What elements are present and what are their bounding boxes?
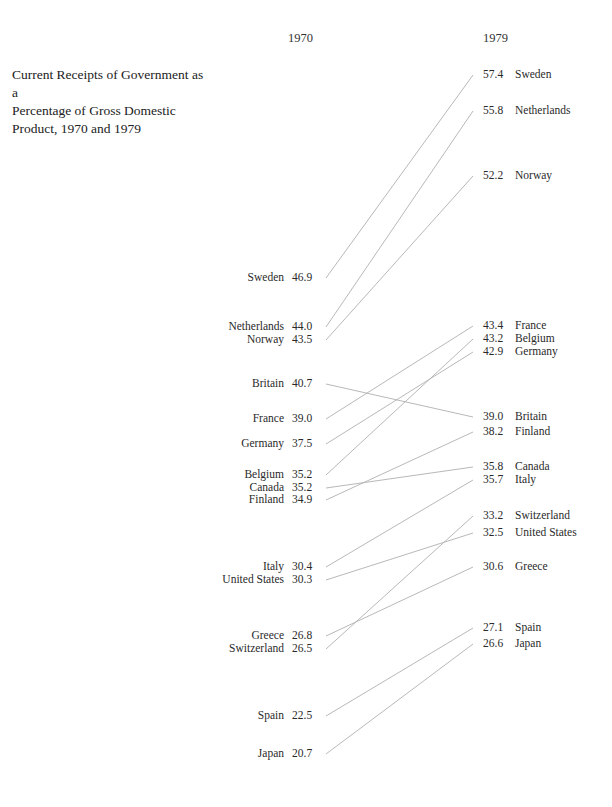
- country-label: Japan: [258, 747, 284, 760]
- slope-line: [326, 644, 473, 754]
- country-label: Belgium: [515, 332, 555, 345]
- country-label: Britain: [252, 377, 284, 390]
- slope-line: [326, 111, 473, 327]
- value-1979: 35.8: [483, 460, 503, 473]
- country-label: Germany: [515, 345, 558, 358]
- country-label: Sweden: [515, 68, 551, 81]
- slope-line: [326, 326, 473, 419]
- country-label: Canada: [515, 460, 549, 473]
- country-label: Norway: [515, 169, 552, 182]
- country-label: Japan: [515, 637, 541, 650]
- country-label: Greece: [251, 629, 284, 642]
- country-label: Spain: [515, 621, 541, 634]
- slope-line: [326, 384, 473, 417]
- country-label: Sweden: [248, 271, 284, 284]
- country-label: Switzerland: [229, 642, 284, 655]
- value-1970: 20.7: [292, 747, 320, 760]
- country-label: Norway: [247, 333, 284, 346]
- value-1970: 35.2: [292, 468, 320, 481]
- country-label: Britain: [515, 410, 547, 423]
- value-1979: 43.4: [483, 319, 503, 332]
- value-1970: 22.5: [292, 709, 320, 722]
- value-1979: 42.9: [483, 345, 503, 358]
- value-1970: 46.9: [292, 271, 320, 284]
- slope-line: [326, 176, 473, 340]
- value-1979: 33.2: [483, 509, 503, 522]
- country-label: Belgium: [244, 468, 284, 481]
- value-1979: 43.2: [483, 332, 503, 345]
- value-1979: 35.7: [483, 473, 503, 486]
- country-label: France: [515, 319, 546, 332]
- slope-line: [326, 628, 473, 716]
- value-1979: 52.2: [483, 169, 503, 182]
- country-label: Greece: [515, 560, 548, 573]
- slope-line: [326, 533, 473, 580]
- country-label: Finland: [249, 493, 284, 506]
- value-1970: 30.3: [292, 573, 320, 586]
- slope-line: [326, 516, 473, 649]
- value-1979: 38.2: [483, 425, 503, 438]
- country-label: Switzerland: [515, 509, 570, 522]
- country-label: Germany: [241, 437, 284, 450]
- value-1979: 39.0: [483, 410, 503, 423]
- country-label: Netherlands: [228, 320, 284, 333]
- value-1979: 26.6: [483, 637, 503, 650]
- slope-line: [326, 467, 473, 488]
- value-1979: 57.4: [483, 68, 503, 81]
- country-label: Italy: [515, 473, 536, 486]
- value-1970: 44.0: [292, 320, 320, 333]
- country-label: United States: [222, 573, 284, 586]
- value-1970: 34.9: [292, 493, 320, 506]
- value-1970: 43.5: [292, 333, 320, 346]
- country-label: Netherlands: [515, 104, 571, 117]
- value-1970: 26.5: [292, 642, 320, 655]
- value-1970: 37.5: [292, 437, 320, 450]
- value-1979: 55.8: [483, 104, 503, 117]
- value-1979: 32.5: [483, 526, 503, 539]
- slope-line: [326, 75, 473, 278]
- slope-lines: [0, 0, 612, 807]
- slope-line: [326, 480, 473, 567]
- slope-line: [326, 352, 473, 444]
- slope-line: [326, 339, 473, 475]
- slope-line: [326, 432, 473, 500]
- value-1970: 26.8: [292, 629, 320, 642]
- value-1970: 30.4: [292, 560, 320, 573]
- country-label: Finland: [515, 425, 550, 438]
- country-label: France: [253, 412, 284, 425]
- value-1970: 39.0: [292, 412, 320, 425]
- country-label: Italy: [263, 560, 284, 573]
- value-1979: 27.1: [483, 621, 503, 634]
- value-1979: 30.6: [483, 560, 503, 573]
- country-label: United States: [515, 526, 577, 539]
- value-1970: 40.7: [292, 377, 320, 390]
- country-label: Spain: [258, 709, 284, 722]
- slope-line: [326, 567, 473, 636]
